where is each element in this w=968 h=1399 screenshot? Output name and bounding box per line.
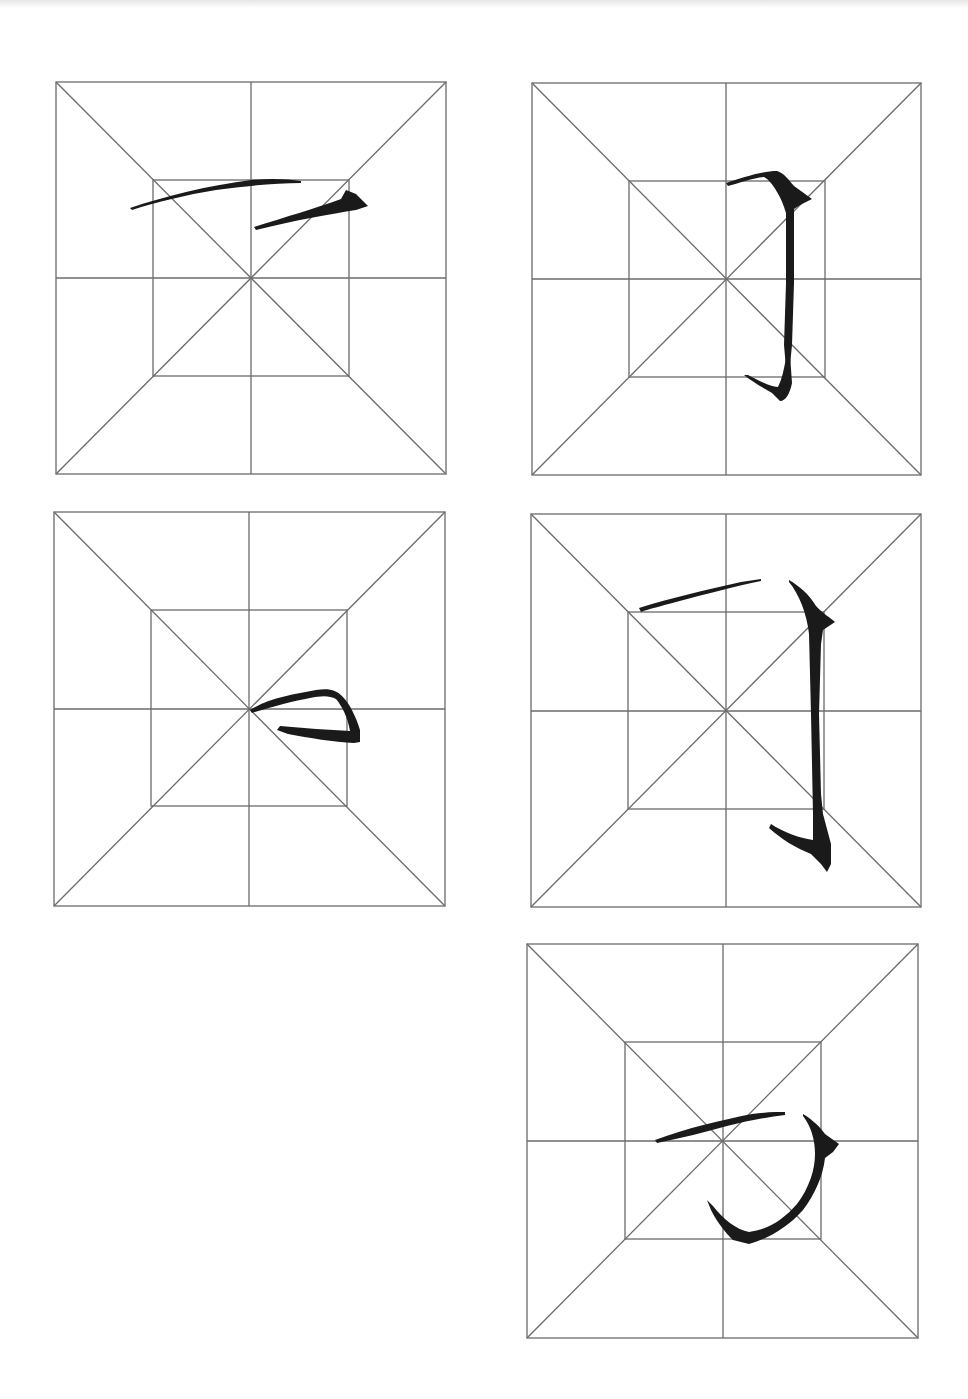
mi-grid-lines bbox=[527, 944, 918, 1338]
brush-stroke bbox=[639, 579, 835, 872]
brush-stroke bbox=[130, 179, 368, 230]
brush-stroke bbox=[250, 689, 360, 743]
practice-grid-3 bbox=[54, 512, 445, 906]
brush-stroke bbox=[655, 1112, 839, 1244]
practice-grid-4 bbox=[531, 514, 921, 907]
brush-stroke bbox=[726, 171, 812, 401]
scan-top-edge bbox=[0, 0, 968, 8]
practice-grid-5 bbox=[527, 944, 918, 1338]
practice-grid-1 bbox=[56, 82, 446, 474]
mi-grid-lines bbox=[532, 83, 921, 475]
practice-grid-2 bbox=[532, 83, 921, 475]
mi-grid-lines bbox=[531, 514, 921, 907]
mi-grid-lines bbox=[54, 512, 445, 906]
mi-grid-lines bbox=[56, 82, 446, 474]
